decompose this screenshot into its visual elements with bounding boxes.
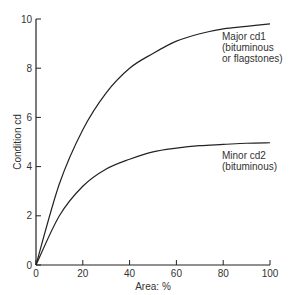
y-tick-label: 6: [26, 112, 32, 123]
y-axis-title: Condition cd: [12, 114, 23, 170]
minor-annotation-line2: (bituminous): [222, 161, 277, 172]
y-tick-label: 8: [26, 63, 32, 74]
y-tick-label: 2: [26, 210, 32, 221]
y-tick-label: 4: [26, 161, 32, 172]
major-annotation-line3: or flagstones): [222, 53, 283, 64]
y-tick-label: 10: [21, 14, 33, 25]
x-tick-label: 80: [218, 268, 230, 279]
x-tick-label: 0: [33, 268, 39, 279]
major-annotation-line1: Major cd1: [222, 31, 266, 42]
x-ticks: 020406080100: [33, 260, 279, 279]
x-axis-title: Area: %: [135, 281, 171, 292]
x-tick-label: 100: [262, 268, 279, 279]
y-ticks: 0246810: [21, 14, 41, 271]
chart-canvas: 0246810 020406080100 Major cd1 (bitumino…: [0, 0, 289, 295]
minor-annotation-line1: Minor cd2: [222, 150, 266, 161]
x-tick-label: 60: [171, 268, 183, 279]
y-tick-label: 0: [26, 260, 32, 271]
x-tick-label: 40: [124, 268, 136, 279]
x-tick-label: 20: [77, 268, 89, 279]
major-annotation-line2: (bituminous: [222, 42, 274, 53]
